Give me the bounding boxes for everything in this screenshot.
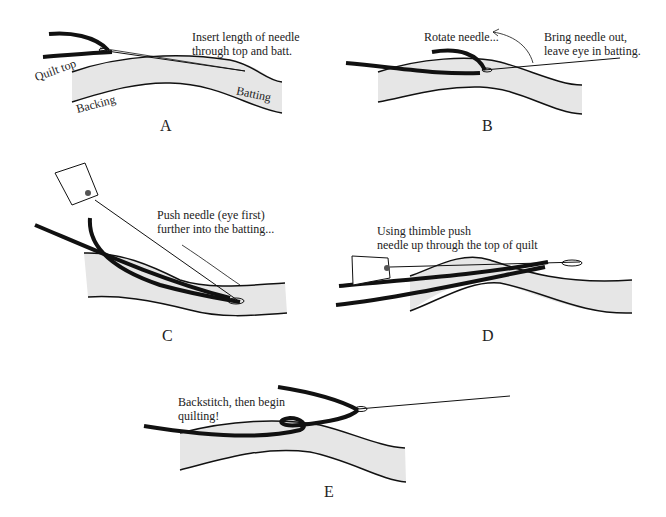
panel-b-caption-right: Bring needle out, leave eye in batting. — [544, 30, 641, 58]
panel-c-drawing — [35, 163, 287, 316]
panel-b-caption-left: Rotate needle... — [424, 30, 499, 44]
panel-d-caption: Using thimble push needle up through the… — [377, 224, 538, 252]
panel-e-caption: Backstitch, then begin quilting! — [178, 395, 285, 423]
panel-d-label: D — [482, 327, 494, 345]
panel-a-label: A — [160, 117, 172, 135]
panel-c-label: C — [162, 327, 173, 345]
panel-d-drawing — [336, 256, 632, 313]
thimble-icon — [55, 163, 98, 205]
panel-e-label: E — [324, 483, 334, 501]
panel-c-caption: Push needle (eye first) further into the… — [157, 208, 274, 236]
panel-b-label: B — [482, 117, 493, 135]
quilting-diagram — [0, 0, 666, 517]
panel-a-caption: Insert length of needle through top and … — [192, 30, 300, 58]
